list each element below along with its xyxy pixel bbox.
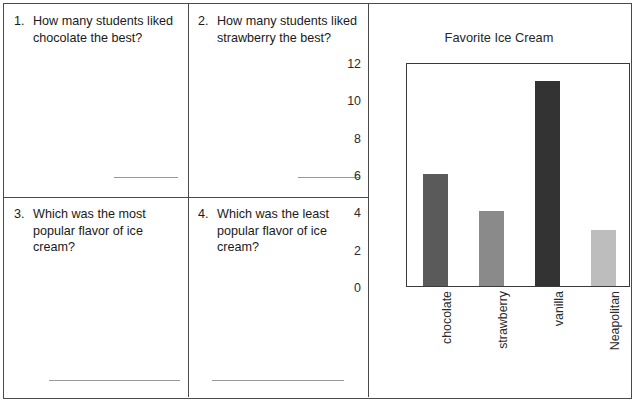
y-tick-label: 12 xyxy=(327,57,361,71)
y-tick-label: 0 xyxy=(327,281,361,295)
answer-blank-4[interactable] xyxy=(212,380,344,381)
y-tick-label: 10 xyxy=(327,94,361,108)
answer-blank-1[interactable] xyxy=(114,177,178,178)
x-tick-label: Neapolitan xyxy=(608,291,622,350)
question-number-1: 1. xyxy=(14,13,33,30)
bar-chart-panel: Favorite Ice Cream 024681012 chocolatest… xyxy=(368,4,630,397)
x-tick-label: chocolate xyxy=(440,291,454,344)
y-tick-label: 8 xyxy=(327,132,361,146)
question-grid: 1. How many students liked chocolate the… xyxy=(4,4,368,397)
x-axis-ticks: chocolatestrawberryvanillaNeapolitan xyxy=(406,289,630,394)
y-tick-label: 6 xyxy=(327,169,361,183)
question-cell-4: 4. Which was the least popular flavor of… xyxy=(188,197,368,397)
question-number-2: 2. xyxy=(198,13,217,30)
question-text-1: How many students liked chocolate the be… xyxy=(33,13,178,46)
worksheet-container: 1. How many students liked chocolate the… xyxy=(3,3,632,399)
question-column-divider xyxy=(188,4,189,397)
y-tick-label: 2 xyxy=(327,244,361,258)
chart-title: Favorite Ice Cream xyxy=(368,30,630,45)
question-text-2: How many students liked strawberry the b… xyxy=(217,13,358,46)
bar xyxy=(479,211,504,286)
x-tick-label: strawberry xyxy=(496,291,510,349)
bar-series xyxy=(407,64,629,286)
y-tick-label: 4 xyxy=(327,206,361,220)
bar xyxy=(591,230,616,286)
plot-area: 024681012 xyxy=(406,63,630,287)
question-row-divider xyxy=(4,197,368,198)
x-tick-label: vanilla xyxy=(552,291,566,326)
bar xyxy=(423,174,448,286)
answer-blank-3[interactable] xyxy=(49,380,180,381)
question-number-3: 3. xyxy=(14,206,33,223)
question-cell-3: 3. Which was the most popular flavor of … xyxy=(4,197,188,397)
question-text-3: Which was the most popular flavor of ice… xyxy=(33,206,178,256)
question-number-4: 4. xyxy=(198,206,217,223)
bar xyxy=(535,81,560,286)
question-cell-1: 1. How many students liked chocolate the… xyxy=(4,4,188,197)
